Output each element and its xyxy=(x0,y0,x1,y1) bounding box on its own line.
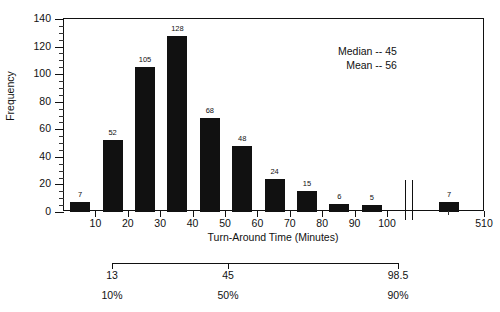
y-tick-minor xyxy=(59,205,64,206)
y-tick-major xyxy=(55,129,64,130)
bar-value-label: 7 xyxy=(447,191,451,199)
x-axis-tick-label: 80 xyxy=(316,218,328,229)
y-tick-major xyxy=(55,184,64,185)
bar xyxy=(135,67,155,212)
y-axis-title: Frequency xyxy=(4,71,16,121)
x-tick-minor xyxy=(448,211,449,215)
plot-area: 75210512868482415657 xyxy=(63,18,484,211)
y-tick-minor xyxy=(59,164,64,165)
y-tick-minor xyxy=(59,60,64,61)
y-tick-minor xyxy=(59,40,64,41)
percentile-percent-label: 90% xyxy=(387,290,408,301)
statistics-annotation: Median -- 45 Mean -- 56 xyxy=(338,44,397,72)
x-axis-tick-label: 20 xyxy=(122,218,134,229)
bar xyxy=(200,118,220,212)
y-axis-tick-label: 40 xyxy=(17,151,51,162)
y-tick-minor xyxy=(59,26,64,27)
y-tick-minor xyxy=(59,67,64,68)
y-axis-tick-label: 20 xyxy=(17,178,51,189)
percentile-percent-label: 10% xyxy=(101,290,122,301)
bar-value-label: 48 xyxy=(238,135,246,143)
x-axis-tick-label: 30 xyxy=(154,218,166,229)
bar-value-label: 68 xyxy=(206,107,214,115)
x-axis-tick-label: 100 xyxy=(378,218,396,229)
mean-text: Mean -- 56 xyxy=(338,58,397,72)
bar xyxy=(297,191,317,212)
y-tick-major xyxy=(55,157,64,158)
bar-value-label: 24 xyxy=(270,168,278,176)
x-axis-title: Turn-Around Time (Minutes) xyxy=(208,231,339,243)
x-axis-tick-label: 90 xyxy=(349,218,361,229)
y-tick-minor xyxy=(59,171,64,172)
bar xyxy=(265,179,285,212)
y-tick-minor xyxy=(59,109,64,110)
median-text: Median -- 45 xyxy=(338,44,397,58)
y-tick-minor xyxy=(59,143,64,144)
percentile-tick xyxy=(112,263,113,269)
percentile-tick xyxy=(398,263,399,269)
percentile-value-label: 98.5 xyxy=(388,270,408,281)
y-tick-major xyxy=(55,102,64,103)
bar-value-label: 5 xyxy=(370,194,374,202)
bar-value-label: 128 xyxy=(171,25,184,33)
y-axis-tick-label: 140 xyxy=(17,13,51,24)
y-tick-minor xyxy=(59,33,64,34)
y-tick-major xyxy=(55,19,64,20)
x-axis-tick-label: 510 xyxy=(475,218,493,229)
x-axis-tick-label: 50 xyxy=(219,218,231,229)
y-tick-minor xyxy=(59,136,64,137)
x-axis-tick-label: 40 xyxy=(187,218,199,229)
y-tick-minor xyxy=(59,150,64,151)
bar xyxy=(103,140,123,212)
bar-value-label: 15 xyxy=(303,180,311,188)
bar-value-label: 7 xyxy=(78,191,82,199)
y-axis-tick-label: 60 xyxy=(17,123,51,134)
y-tick-minor xyxy=(59,81,64,82)
percentile-value-label: 45 xyxy=(222,270,234,281)
x-axis-tick-label: 60 xyxy=(252,218,264,229)
y-axis-tick-label: 80 xyxy=(17,96,51,107)
percentile-scale-line xyxy=(112,263,398,264)
chart-page: Frequency 020406080100120140 75210512868… xyxy=(0,0,500,312)
y-tick-minor xyxy=(59,53,64,54)
y-axis-tick-label: 100 xyxy=(17,68,51,79)
y-tick-minor xyxy=(59,198,64,199)
x-axis-tick-label: 70 xyxy=(284,218,296,229)
bar-value-label: 105 xyxy=(139,56,152,64)
y-tick-minor xyxy=(59,95,64,96)
percentile-percent-label: 50% xyxy=(217,290,238,301)
x-axis-tick-label: 10 xyxy=(90,218,102,229)
y-tick-minor xyxy=(59,88,64,89)
y-tick-minor xyxy=(59,191,64,192)
bar xyxy=(232,146,252,212)
y-tick-major xyxy=(55,74,64,75)
bar-value-label: 6 xyxy=(337,193,341,201)
y-axis-tick-label: 120 xyxy=(17,41,51,52)
y-tick-minor xyxy=(59,116,64,117)
y-tick-major xyxy=(55,47,64,48)
y-tick-minor xyxy=(59,178,64,179)
percentile-tick xyxy=(228,263,229,269)
percentile-value-label: 13 xyxy=(106,270,118,281)
bar-value-label: 52 xyxy=(108,129,116,137)
y-tick-minor xyxy=(59,122,64,123)
bar xyxy=(167,36,187,212)
y-axis-tick-label: 0 xyxy=(17,206,51,217)
